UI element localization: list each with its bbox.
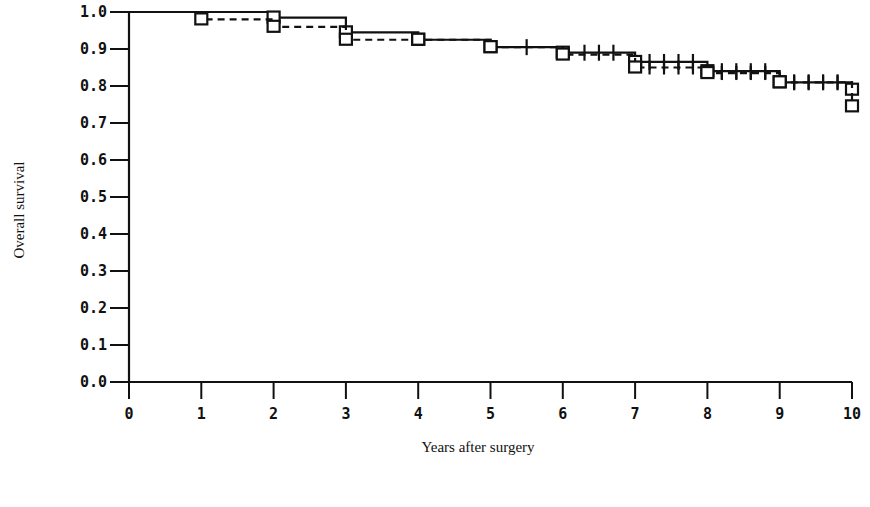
y-tick-label: 0.7 — [80, 114, 107, 132]
y-tick-label: 0.3 — [80, 262, 107, 280]
y-tick-label: 0.1 — [80, 336, 107, 354]
x-tick-label: 5 — [486, 405, 495, 423]
y-tick-label: 0.8 — [80, 77, 107, 95]
y-tick-label: 0.9 — [80, 40, 107, 58]
x-tick-label: 1 — [197, 405, 206, 423]
y-tick-label: 0.6 — [80, 151, 107, 169]
y-tick-label: 0.4 — [80, 225, 107, 243]
x-tick-label: 8 — [703, 405, 712, 423]
x-axis-title: Years after surgery — [421, 439, 535, 455]
square-marker-icon — [485, 41, 497, 52]
survival-chart: 0.00.10.20.30.40.50.60.70.80.91.0 012345… — [0, 0, 870, 507]
y-tick-label: 1.0 — [80, 3, 107, 21]
x-tick-label: 10 — [843, 405, 861, 423]
survival-curve-dashed — [129, 12, 852, 106]
x-axis: 012345678910 — [124, 382, 861, 423]
x-tick-label: 7 — [631, 405, 640, 423]
square-marker-icon — [268, 21, 280, 32]
square-marker-icon — [701, 67, 713, 78]
x-tick-label: 0 — [124, 405, 133, 423]
x-tick-label: 9 — [775, 405, 784, 423]
square-marker-icon — [195, 13, 207, 24]
square-marker-icon — [629, 62, 641, 73]
plot-series — [129, 12, 858, 112]
y-axis: 0.00.10.20.30.40.50.60.70.80.91.0 — [80, 3, 129, 391]
y-axis-title: Overall survival — [11, 161, 27, 258]
y-tick-label: 0.2 — [80, 299, 107, 317]
square-marker-icon — [846, 100, 858, 111]
square-marker-icon — [412, 34, 424, 45]
square-marker-icon — [557, 49, 569, 60]
square-marker-icon — [774, 76, 786, 87]
x-tick-label: 2 — [269, 405, 278, 423]
x-tick-label: 6 — [558, 405, 567, 423]
x-tick-label: 4 — [414, 405, 423, 423]
square-marker-icon — [340, 34, 352, 45]
x-tick-label: 3 — [341, 405, 350, 423]
y-tick-label: 0.0 — [80, 373, 107, 391]
y-tick-label: 0.5 — [80, 188, 107, 206]
